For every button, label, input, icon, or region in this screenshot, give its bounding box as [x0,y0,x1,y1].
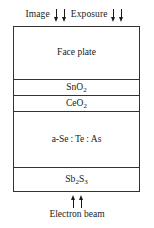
layer-label: Sb2S3 [65,175,87,185]
electron-beam-arrows [0,195,154,208]
up-arrow-icon [79,195,84,208]
top-annotation-row: Image Exposure [0,7,154,23]
down-arrow-icon [119,9,124,22]
layer-label: CeO2 [66,99,87,109]
layer-label: SnO2 [66,83,86,93]
layer-sno2: SnO2 [14,80,139,96]
exposure-label: Exposure [71,10,108,20]
image-arrows [54,9,67,22]
layer-label: Face plate [57,48,96,58]
layer-a-se-te-as: a-Se : Te : As [14,112,139,168]
exposure-arrows [111,9,124,22]
up-arrow-icon [71,195,76,208]
layer-stack-diagram: Image Exposure Face plate SnO2 [0,0,154,228]
layer-sb2s3: Sb2S3 [14,168,139,191]
layer-label: a-Se : Te : As [52,135,102,145]
layer-ceo2: CeO2 [14,96,139,112]
layer-stack: Face plate SnO2 CeO2 a-Se : Te : As Sb2S… [13,26,140,192]
down-arrow-icon [62,9,67,22]
down-arrow-icon [111,9,116,22]
electron-beam-label: Electron beam [0,210,154,220]
image-label: Image [26,10,50,20]
down-arrow-icon [54,9,59,22]
layer-face-plate: Face plate [14,27,139,80]
